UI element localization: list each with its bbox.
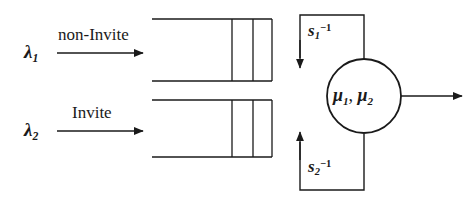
- arrival-rate-label-2: λ2: [24, 120, 38, 143]
- flow-label-non-invite: non-Invite: [58, 26, 129, 43]
- queueing-diagram: λ1 non-Invite λ2 Invite s1−1 s2−1 μ1, μ2: [0, 0, 476, 209]
- flow-label-invite: Invite: [72, 104, 112, 121]
- s1-superscript: −1: [320, 22, 331, 33]
- queue-1: [152, 19, 272, 81]
- lambda-2-subscript: 2: [32, 130, 38, 143]
- s2-superscript: −1: [320, 158, 331, 169]
- mu-1-symbol: μ: [333, 85, 343, 105]
- server-label-separator: ,: [349, 85, 358, 105]
- s2-symbol: s: [308, 157, 315, 176]
- feedback-rate-label-2: s2−1: [308, 158, 331, 178]
- mu-2-subscript: 2: [368, 95, 374, 107]
- feedback-rate-label-1: s1−1: [308, 22, 331, 42]
- arrival-rate-label-1: λ1: [24, 42, 38, 65]
- queue-2: [152, 100, 272, 157]
- s1-symbol: s: [308, 21, 315, 40]
- mu-2-symbol: μ: [358, 85, 368, 105]
- lambda-1-subscript: 1: [32, 52, 38, 65]
- server-rate-label: μ1, μ2: [333, 86, 373, 107]
